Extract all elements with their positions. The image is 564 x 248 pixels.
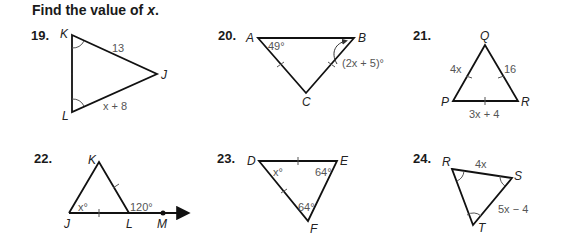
vertex-L: L — [126, 217, 133, 231]
triangle-21: Q P R 4x 16 3x + 4 — [441, 29, 530, 120]
diagrams: K J L 13 x + 8 A B C 49° (2x + 5)° Q P R… — [0, 0, 564, 248]
vertex-K: K — [60, 27, 69, 41]
angle-F-label: 64° — [298, 201, 315, 213]
vertex-L: L — [62, 109, 69, 123]
angle-D-label: x° — [273, 166, 283, 178]
vertex-C: C — [302, 95, 311, 109]
vertex-M: M — [157, 217, 167, 231]
side-KJ-label: 13 — [112, 42, 124, 54]
triangle-19: K J L 13 x + 8 — [60, 27, 168, 123]
vertex-J: J — [63, 217, 71, 231]
vertex-R: R — [521, 95, 530, 109]
vertex-A: A — [245, 31, 254, 45]
triangle-22: K J L M x° 120° — [63, 153, 187, 231]
side-PQ-label: 4x — [450, 63, 462, 75]
side-QR-label: 16 — [504, 63, 516, 75]
side-LJ-label: x + 8 — [103, 100, 127, 112]
vertex-Q: Q — [480, 29, 489, 43]
vertex-T: T — [478, 221, 487, 235]
angle-B-label: (2x + 5)° — [342, 57, 384, 69]
vertex-B: B — [358, 31, 366, 45]
vertex-D: D — [247, 154, 256, 168]
vertex-P: P — [441, 95, 449, 109]
angle-KLM-label: 120° — [130, 201, 153, 213]
vertex-K: K — [88, 153, 97, 167]
triangle-24: R S T 4x 5x − 4 — [442, 155, 528, 235]
side-RS-label: 4x — [475, 158, 487, 170]
vertex-R: R — [442, 155, 451, 169]
angle-E-label: 64° — [315, 166, 332, 178]
angle-A-label: 49° — [268, 40, 285, 52]
side-PR-label: 3x + 4 — [469, 108, 499, 120]
vertex-F: F — [310, 222, 318, 236]
triangle-23: D E F x° 64° 64° — [247, 154, 349, 236]
angle-J-label: x° — [78, 201, 88, 213]
triangle-20: A B C 49° (2x + 5)° — [245, 31, 384, 109]
vertex-S: S — [514, 169, 522, 183]
vertex-J: J — [160, 68, 168, 82]
side-ST-label: 5x − 4 — [498, 203, 528, 215]
vertex-E: E — [340, 154, 349, 168]
